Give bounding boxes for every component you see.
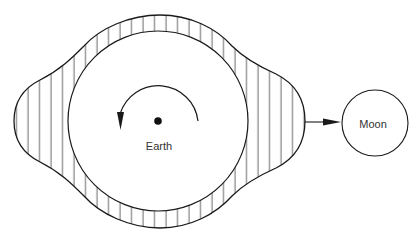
tidal-bulge-diagram [0, 0, 419, 243]
earth-label: Earth [146, 140, 172, 152]
moon-label: Moon [359, 118, 387, 130]
arrow-to-moon-icon [305, 119, 341, 126]
earth-center-dot [154, 117, 162, 125]
